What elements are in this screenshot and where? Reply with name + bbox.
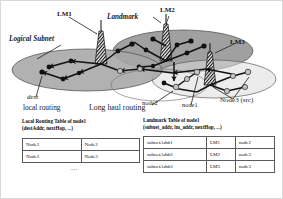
- label-node1: node1: [182, 102, 198, 108]
- table-row: Node2 Node2: [23, 139, 140, 151]
- table-cell: LM1: [206, 137, 235, 149]
- node-node2: [173, 84, 179, 90]
- table-cell: subnetAddr1: [144, 137, 207, 149]
- table-row: Node3 Node3: [23, 151, 140, 163]
- table-cell: Node2: [23, 139, 82, 151]
- table-cell: node3: [235, 161, 274, 173]
- landmark-table: subnetAddr1 LM1 node2 subnetAddr2 LM2 no…: [143, 136, 275, 173]
- table-cell: node2: [235, 137, 274, 149]
- label-long-haul-routing: Long haul routing: [89, 104, 145, 112]
- local-caption-line1: Local Routing Table of node1: [22, 118, 86, 125]
- label-lm2: LM2: [160, 7, 175, 14]
- table-cell: subnetAddr3: [144, 161, 207, 173]
- figure-container: LM1 LM2 LM3 Landmark Logical Subnet dest…: [0, 0, 283, 199]
- table-cell: node3: [235, 149, 274, 161]
- local-table-ellipsis: ...: [71, 164, 78, 172]
- label-dest: dest: [27, 94, 38, 101]
- table-cell: LM2: [206, 149, 235, 161]
- node-dest: [39, 69, 44, 74]
- leader-landmark: [153, 17, 161, 23]
- local-caption-line2: (destAddr, nextHop, ...): [22, 125, 86, 132]
- table-cell: Node2: [81, 139, 140, 151]
- label-lm1: LM1: [57, 11, 72, 18]
- table-cell: LM3: [206, 161, 235, 173]
- table-cell: Node3: [23, 151, 82, 163]
- node-node3-src: [245, 69, 251, 75]
- landmark-tower-1: [95, 20, 107, 64]
- label-lm3: LM3: [230, 39, 245, 46]
- landmark-caption-line1: Landmark Table of node1: [143, 117, 222, 124]
- table-cell: Node3: [81, 151, 140, 163]
- label-landmark: Landmark: [107, 14, 138, 21]
- local-table-caption: Local Routing Table of node1 (destAddr, …: [22, 118, 86, 132]
- table-row: subnetAddr3 LM3 node3: [144, 161, 275, 173]
- label-local-routing: local routing: [23, 104, 61, 111]
- landmark-table-caption: Landmark Table of node1 (subnet_addr, lm…: [143, 117, 222, 131]
- node-node1: [194, 69, 200, 75]
- table-cell: subnetAddr2: [144, 149, 207, 161]
- table-row: subnetAddr1 LM1 node2: [144, 137, 275, 149]
- leader-lm1: [69, 17, 97, 34]
- local-routing-table: Node2 Node2 Node3 Node3: [22, 138, 140, 163]
- landmark-caption-line2: (subnet_addr, lm_addr, nextHop, ...): [143, 124, 222, 131]
- label-logical-subnet: Logical Subnet: [9, 36, 54, 43]
- label-node3-src: Node3 (src): [220, 97, 253, 104]
- table-row: subnetAddr2 LM2 node3: [144, 149, 275, 161]
